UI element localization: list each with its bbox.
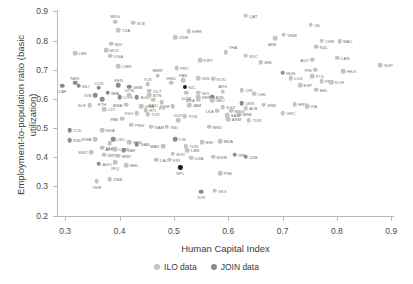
data-point[interactable] — [252, 91, 257, 96]
data-point[interactable] — [243, 14, 248, 19]
data-point[interactable] — [113, 19, 118, 24]
data-point[interactable] — [182, 114, 187, 119]
data-point[interactable] — [87, 103, 92, 108]
data-point[interactable] — [100, 128, 105, 133]
data-point[interactable] — [273, 36, 278, 41]
data-point[interactable] — [309, 22, 314, 27]
data-point[interactable] — [247, 118, 252, 123]
data-point[interactable] — [226, 117, 231, 122]
legend-item-ilo[interactable]: ILO data — [154, 262, 197, 272]
data-point[interactable] — [116, 83, 121, 88]
data-point[interactable] — [173, 137, 178, 142]
data-point[interactable] — [261, 102, 266, 107]
data-point[interactable] — [94, 179, 99, 184]
data-point[interactable] — [181, 78, 186, 83]
data-point[interactable] — [97, 161, 102, 166]
data-point[interactable] — [196, 97, 201, 102]
data-point[interactable] — [117, 95, 122, 100]
data-point[interactable] — [211, 76, 216, 81]
data-point[interactable] — [131, 20, 136, 25]
data-point[interactable] — [89, 150, 94, 155]
data-point[interactable] — [212, 188, 217, 193]
data-point[interactable] — [127, 93, 132, 98]
data-point[interactable] — [178, 165, 182, 169]
data-point[interactable] — [196, 76, 201, 81]
data-point[interactable] — [319, 38, 324, 43]
data-point[interactable] — [337, 39, 342, 44]
data-point[interactable] — [341, 69, 346, 74]
data-point[interactable] — [129, 122, 134, 127]
data-point[interactable] — [107, 177, 112, 182]
data-point[interactable] — [116, 64, 121, 69]
data-point[interactable] — [161, 144, 166, 149]
data-point[interactable] — [313, 67, 318, 72]
data-point[interactable] — [109, 41, 114, 46]
data-point[interactable] — [127, 140, 132, 145]
data-point[interactable] — [329, 80, 334, 85]
data-point[interactable] — [60, 84, 65, 89]
data-point[interactable] — [211, 154, 216, 159]
data-point[interactable] — [164, 124, 169, 129]
data-point[interactable] — [314, 44, 319, 49]
data-point[interactable] — [67, 138, 72, 143]
data-point[interactable] — [196, 90, 201, 95]
data-point[interactable] — [185, 148, 190, 153]
data-point[interactable] — [124, 163, 129, 168]
data-point[interactable] — [243, 154, 248, 159]
data-point[interactable] — [281, 32, 286, 37]
data-point[interactable] — [174, 66, 179, 71]
data-point[interactable] — [259, 60, 264, 65]
data-point[interactable] — [200, 140, 205, 145]
data-point[interactable] — [135, 111, 140, 116]
data-point[interactable] — [135, 142, 140, 147]
data-point[interactable] — [155, 73, 160, 78]
data-point[interactable] — [100, 146, 105, 151]
data-point[interactable] — [243, 106, 248, 111]
data-point[interactable] — [310, 74, 315, 79]
data-point[interactable] — [220, 89, 225, 94]
data-point[interactable] — [223, 50, 228, 55]
data-point[interactable] — [305, 104, 310, 109]
data-point[interactable] — [120, 116, 125, 121]
data-point[interactable] — [187, 103, 192, 108]
data-point[interactable] — [199, 189, 204, 194]
data-point[interactable] — [93, 137, 98, 142]
data-point[interactable] — [198, 58, 203, 63]
data-point[interactable] — [151, 97, 156, 102]
data-point[interactable] — [104, 48, 109, 53]
data-point[interactable] — [240, 101, 245, 106]
data-point[interactable] — [116, 153, 121, 158]
data-point[interactable] — [149, 124, 154, 129]
data-point[interactable] — [207, 124, 212, 129]
data-point[interactable] — [314, 87, 319, 92]
data-point[interactable] — [116, 28, 121, 33]
data-point[interactable] — [124, 102, 129, 107]
data-point[interactable] — [288, 76, 293, 81]
data-point[interactable] — [210, 98, 215, 103]
data-point[interactable] — [186, 29, 191, 34]
data-point[interactable] — [113, 147, 118, 152]
data-point[interactable] — [167, 157, 172, 162]
data-point[interactable] — [335, 55, 340, 60]
data-point[interactable] — [243, 53, 248, 58]
data-point[interactable] — [220, 105, 225, 110]
data-point[interactable] — [319, 79, 324, 84]
data-point[interactable] — [280, 111, 285, 116]
data-point[interactable] — [310, 57, 315, 62]
data-point[interactable] — [105, 90, 110, 95]
legend-item-join[interactable]: JOIN data — [211, 262, 259, 272]
data-point[interactable] — [113, 160, 118, 165]
data-point[interactable] — [298, 83, 303, 88]
data-point[interactable] — [122, 148, 127, 153]
data-point[interactable] — [67, 128, 72, 133]
data-point[interactable] — [73, 51, 78, 56]
data-point[interactable] — [76, 84, 81, 89]
data-point[interactable] — [135, 95, 140, 100]
data-point[interactable] — [102, 153, 107, 158]
data-point[interactable] — [189, 156, 194, 161]
data-point[interactable] — [173, 35, 178, 40]
data-point[interactable] — [108, 53, 113, 58]
data-point[interactable] — [240, 88, 245, 93]
data-point[interactable] — [170, 151, 175, 156]
data-point[interactable] — [218, 171, 223, 176]
